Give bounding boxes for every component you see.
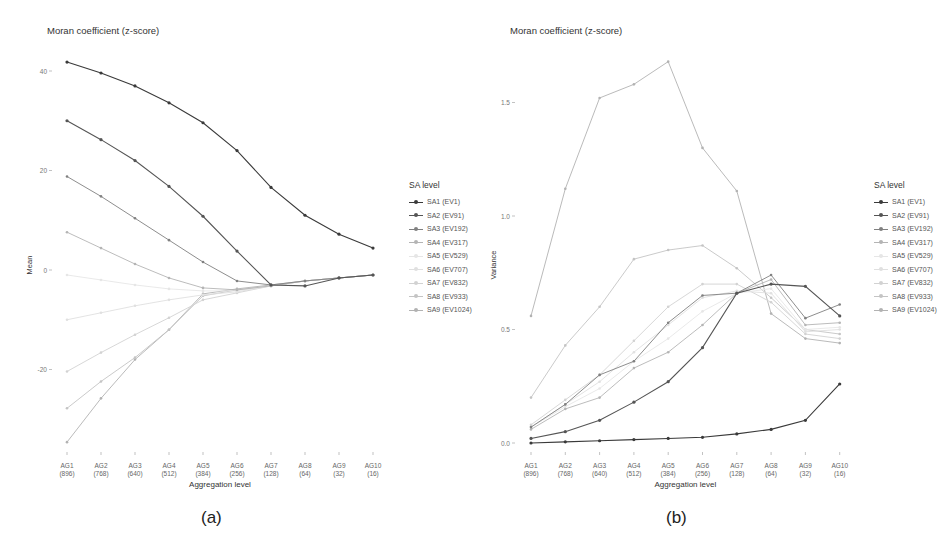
data-point <box>133 84 136 87</box>
x-tick-label: (128) <box>729 470 744 478</box>
legend-item: SA3 (EV192) <box>874 222 937 236</box>
legend-swatch-icon <box>409 265 423 273</box>
x-tick-label: (384) <box>661 470 676 478</box>
data-point <box>667 321 670 324</box>
series-sa3 <box>66 175 375 286</box>
legend-label: SA6 (EV707) <box>892 266 933 273</box>
data-point <box>598 439 601 442</box>
data-point <box>100 380 103 383</box>
data-point <box>667 306 670 309</box>
data-point <box>66 441 69 444</box>
x-tick-label: AG10 <box>365 462 382 469</box>
y-axis-label: Variance <box>489 250 498 279</box>
data-point <box>66 175 69 178</box>
data-point <box>564 405 567 408</box>
mean-line-chart: -2002040MeanAG1(896)AG2(768)AG3(640)AG4(… <box>0 0 476 536</box>
data-point <box>530 396 533 399</box>
data-point <box>66 318 69 321</box>
x-tick-label: AG5 <box>662 462 675 469</box>
data-point <box>838 342 841 345</box>
data-point <box>838 333 841 336</box>
data-point <box>236 289 239 292</box>
legend-label: SA5 (EV529) <box>892 252 933 259</box>
data-point <box>66 407 69 410</box>
x-tick-label: AG6 <box>696 462 709 469</box>
series-sa4 <box>530 278 841 430</box>
legend-item: SA3 (EV192) <box>409 222 472 236</box>
data-point <box>701 294 704 297</box>
x-tick-label: AG5 <box>196 462 209 469</box>
data-point <box>770 274 773 277</box>
legend-swatch-icon <box>874 265 888 273</box>
y-tick-label: 1.0 <box>501 213 510 220</box>
data-point <box>303 284 306 287</box>
legend-item: SA8 (EV933) <box>874 290 937 304</box>
x-tick-label: AG4 <box>627 462 640 469</box>
data-point <box>564 344 567 347</box>
data-point <box>804 324 807 327</box>
legend-swatch-icon <box>409 306 423 314</box>
y-tick-label: 0.5 <box>501 326 510 333</box>
x-tick-label: AG9 <box>799 462 812 469</box>
data-point <box>667 380 670 383</box>
data-point <box>701 324 704 327</box>
data-point <box>269 283 272 286</box>
legend-swatch-icon <box>409 279 423 287</box>
x-tick-label: (768) <box>93 470 108 478</box>
x-tick-label: (64) <box>299 470 311 478</box>
x-tick-label: AG7 <box>730 462 743 469</box>
data-point <box>770 278 773 281</box>
legend-a: SA level SA1 (EV1)SA2 (EV91)SA3 (EV192)S… <box>409 180 472 317</box>
x-tick-label: AG6 <box>230 462 243 469</box>
data-point <box>838 337 841 340</box>
data-point <box>804 330 807 333</box>
data-point <box>701 346 704 349</box>
legend-label: SA4 (EV317) <box>892 239 933 246</box>
data-point <box>838 328 841 331</box>
x-tick-label: AG7 <box>264 462 277 469</box>
legend-swatch-icon <box>409 211 423 219</box>
data-point <box>337 233 340 236</box>
x-tick-label: (384) <box>195 470 210 478</box>
series-sa2 <box>529 283 841 441</box>
data-point <box>736 283 739 286</box>
data-point <box>632 401 635 404</box>
data-point <box>633 258 636 261</box>
data-point <box>168 299 171 302</box>
legend-label: SA9 (EV1024) <box>427 306 472 313</box>
legend-item: SA1 (EV1) <box>409 195 472 209</box>
x-tick-label: (640) <box>127 470 142 478</box>
x-tick-label: (64) <box>765 470 777 478</box>
data-point <box>529 441 532 444</box>
data-point <box>804 337 807 340</box>
x-tick-label: (32) <box>333 470 345 478</box>
x-tick-label: AG2 <box>94 462 107 469</box>
data-point <box>633 367 636 370</box>
legend-label: SA8 (EV933) <box>427 293 468 300</box>
x-tick-label: (512) <box>161 470 176 478</box>
legend-swatch-icon <box>874 211 888 219</box>
data-point <box>371 273 374 276</box>
data-point <box>667 351 670 354</box>
data-point <box>235 249 238 252</box>
data-point <box>770 296 773 299</box>
data-point <box>735 432 738 435</box>
data-point <box>564 440 567 443</box>
series-sa1 <box>65 60 374 249</box>
data-point <box>735 292 738 295</box>
legend-item: SA4 (EV317) <box>874 236 937 250</box>
x-tick-label: (512) <box>626 470 641 478</box>
data-point <box>100 397 103 400</box>
legend-title: SA level <box>874 180 937 190</box>
data-point <box>65 60 68 63</box>
data-point <box>633 360 636 363</box>
series-sa9 <box>66 274 375 444</box>
data-point <box>598 419 601 422</box>
data-point <box>133 159 136 162</box>
data-point <box>564 403 567 406</box>
data-point <box>202 261 205 264</box>
legend-item: SA5 (EV529) <box>409 249 472 263</box>
data-point <box>66 231 69 234</box>
x-tick-label: (256) <box>229 470 244 478</box>
data-point <box>736 190 739 193</box>
